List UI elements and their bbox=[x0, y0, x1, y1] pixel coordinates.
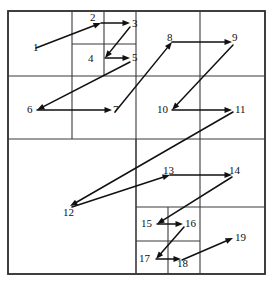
node-label-18: 18 bbox=[177, 258, 188, 269]
arrow-head-18 bbox=[225, 238, 233, 244]
arrow-head-6 bbox=[105, 107, 113, 113]
curve-segment-11 bbox=[74, 112, 233, 204]
node-label-7: 7 bbox=[113, 104, 119, 115]
curve-segment-12 bbox=[72, 177, 165, 207]
arrow-head-5 bbox=[37, 104, 45, 110]
curve-segment-3 bbox=[108, 27, 130, 54]
arrow-head-15 bbox=[176, 221, 184, 227]
arrow-head-14 bbox=[157, 218, 165, 224]
arrow-head-4 bbox=[123, 55, 131, 61]
node-label-14: 14 bbox=[229, 165, 240, 176]
node-label-3: 3 bbox=[132, 18, 138, 29]
arrow-head-8 bbox=[225, 39, 233, 45]
arrow-head-10 bbox=[225, 107, 233, 113]
node-label-8: 8 bbox=[167, 32, 173, 43]
node-label-13: 13 bbox=[163, 165, 174, 176]
node-label-17: 17 bbox=[139, 253, 150, 264]
curve-segment-14 bbox=[161, 177, 232, 221]
node-label-2: 2 bbox=[90, 12, 96, 23]
node-label-4: 4 bbox=[88, 53, 94, 64]
curve-segment-18 bbox=[182, 240, 228, 260]
node-label-19: 19 bbox=[235, 232, 246, 243]
node-label-16: 16 bbox=[185, 218, 196, 229]
node-label-6: 6 bbox=[27, 104, 33, 115]
diagram-page: 12345678910111213141516171819 bbox=[0, 0, 273, 282]
node-label-5: 5 bbox=[132, 52, 138, 63]
node-label-12: 12 bbox=[63, 207, 74, 218]
node-label-10: 10 bbox=[157, 104, 168, 115]
node-label-9: 9 bbox=[232, 32, 238, 43]
node-label-15: 15 bbox=[141, 218, 152, 229]
node-label-1: 1 bbox=[33, 42, 39, 53]
node-label-11: 11 bbox=[235, 104, 246, 115]
arrow-head-2 bbox=[123, 20, 131, 26]
curve-segment-5 bbox=[41, 62, 130, 108]
arrow-head-1 bbox=[93, 23, 101, 28]
